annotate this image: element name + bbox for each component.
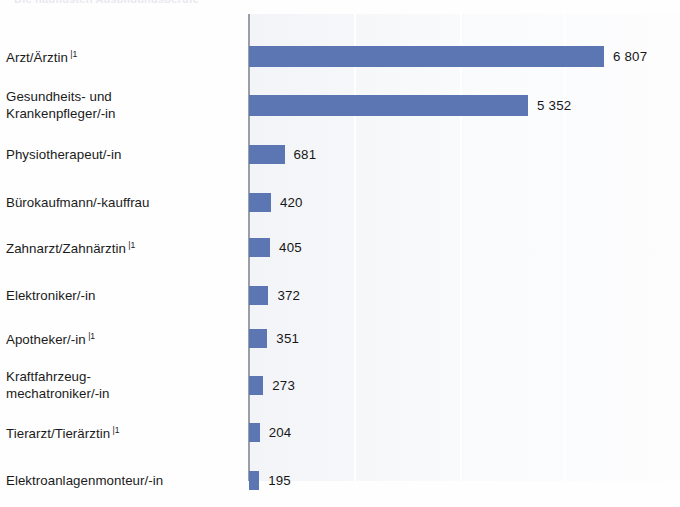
bar-row: Kraftfahrzeug- mechatroniker/-in273 [0,368,680,402]
bar-value-label: 273 [272,378,295,393]
bar-value-label: 351 [276,331,299,346]
category-label: Apotheker/-in |1 [6,328,238,348]
bar-value-label: 204 [269,425,292,440]
bar-row: Tierarzt/Tierärztin |1204 [0,415,680,449]
footnote-marker: |1 [68,49,77,59]
category-label: Physiotherapeut/-in [6,146,238,163]
bar-value-label: 195 [268,473,291,488]
bar-row: Arzt/Ärztin |16 807 [0,39,680,73]
category-label: Elektroniker/-in [6,287,238,304]
bar-row: Zahnarzt/Zahnärztin |1405 [0,230,680,264]
bar-value-label: 372 [277,288,300,303]
bar-and-value: 351 [249,329,299,348]
bar-value-label: 6 807 [613,49,647,64]
category-label: Bürokaufmann/-kauffrau [6,194,238,211]
bar[interactable] [249,95,528,116]
bar-row: Apotheker/-in |1351 [0,321,680,355]
bar-value-label: 681 [294,147,317,162]
bar-and-value: 405 [249,238,302,257]
bar-and-value: 6 807 [249,46,647,67]
bar-and-value: 195 [249,471,291,490]
bar-rows: Arzt/Ärztin |16 807Gesundheits- und Kran… [0,14,680,481]
bar-and-value: 681 [249,145,316,164]
bar-row: Bürokaufmann/-kauffrau420 [0,185,680,219]
bar-value-label: 5 352 [537,98,571,113]
bar[interactable] [249,376,263,395]
bar[interactable] [249,193,271,212]
footnote-marker: |1 [86,331,95,341]
bar[interactable] [249,471,259,490]
category-label: Arzt/Ärztin |1 [6,46,238,66]
footnote-marker: |1 [110,425,119,435]
category-label: Kraftfahrzeug- mechatroniker/-in [6,368,238,402]
bar[interactable] [249,329,267,348]
bar-and-value: 372 [249,286,300,305]
cut-off-title: Die häufigsten Ausbildungsberufe [14,0,344,3]
category-label: Elektroanlagenmonteur/-in [6,472,238,489]
bar[interactable] [249,238,270,257]
bar-row: Gesundheits- und Krankenpfleger/-in5 352 [0,88,680,122]
bar[interactable] [249,145,285,164]
bar-and-value: 273 [249,376,295,395]
bar-row: Elektroniker/-in372 [0,278,680,312]
bar[interactable] [249,286,268,305]
bar-and-value: 5 352 [249,95,571,116]
bar[interactable] [249,46,604,67]
bar-row: Elektroanlagenmonteur/-in195 [0,463,680,497]
footnote-marker: |1 [126,240,135,250]
chart-figure: Die häufigsten Ausbildungsberufe Arzt/Är… [0,0,680,507]
bar[interactable] [249,423,260,442]
bar-and-value: 204 [249,423,291,442]
bar-value-label: 420 [280,195,303,210]
category-label: Tierarzt/Tierärztin |1 [6,422,238,442]
category-label: Zahnarzt/Zahnärztin |1 [6,237,238,257]
bar-row: Physiotherapeut/-in681 [0,137,680,171]
bar-and-value: 420 [249,193,303,212]
bar-value-label: 405 [279,240,302,255]
category-label: Gesundheits- und Krankenpfleger/-in [6,88,238,122]
